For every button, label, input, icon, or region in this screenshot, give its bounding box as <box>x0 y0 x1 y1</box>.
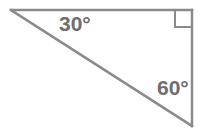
angle-label-bottom-right: 60° <box>157 77 189 98</box>
right-triangle-drawing <box>0 0 201 140</box>
triangle-hypotenuse <box>11 10 192 126</box>
right-angle-marker-icon <box>175 10 192 27</box>
angle-label-top-left: 30° <box>59 13 91 34</box>
geometry-figure: 30° 60° <box>0 0 201 140</box>
